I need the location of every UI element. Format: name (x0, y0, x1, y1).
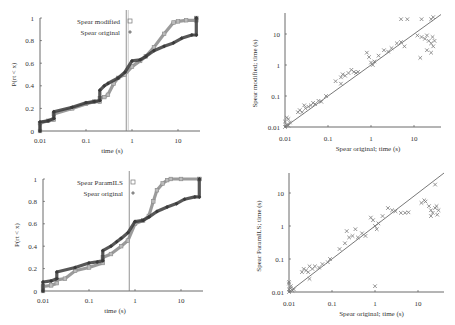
scatter-point (425, 48, 429, 52)
x-tick-label: 0.1 (82, 137, 91, 145)
scatter-point (399, 17, 403, 21)
cdf-plot-top: 0.010.111000.20.40.60.81time (s)P(rt < x… (0, 0, 230, 160)
scatter-plot-bottom: 0.010.11100.010.1110Spear original; time… (230, 160, 455, 325)
scatter-point (433, 39, 437, 43)
scatter-point (429, 214, 433, 218)
scatter-point (347, 71, 351, 75)
y-tick-label: 10 (273, 31, 281, 39)
scatter-point (367, 55, 371, 59)
scatter-point (373, 284, 377, 288)
y-axis-label: Spear modified; time (s) (251, 39, 259, 108)
square-marker (103, 95, 107, 99)
scatter-point (420, 17, 424, 21)
legend-label: Spear modified (77, 18, 120, 26)
square-marker (126, 239, 130, 243)
y-tick-label: 0.1 (271, 93, 280, 101)
diagonal-line (289, 173, 444, 292)
scatter-point (343, 241, 347, 245)
scatter-point (365, 51, 369, 55)
legend-diamond-icon (128, 30, 132, 34)
legend-diamond-icon (131, 191, 135, 195)
scatter-point (382, 48, 386, 52)
legend-label: Spear original (84, 190, 124, 198)
y-tick-label: 0.01 (268, 124, 281, 132)
square-marker (184, 18, 188, 22)
y-tick-label: 0.2 (28, 265, 37, 273)
x-tick-label: 0.01 (37, 297, 50, 305)
square-marker (162, 32, 166, 36)
scatter-point (407, 211, 411, 215)
cdf-chart-top: 0.010.111000.20.40.60.81time (s)P(rt < x… (0, 0, 230, 160)
square-marker (152, 200, 156, 204)
y-tick-label: 0.1 (275, 256, 284, 264)
y-tick-label: 1 (34, 176, 38, 184)
cdf-plot-bottom: 0.010.111000.20.40.60.81time (s)P(rt < x… (0, 160, 230, 325)
scatter-point (347, 236, 351, 240)
scatter-point (429, 51, 433, 55)
x-tick-label: 10 (175, 137, 183, 145)
scatter-point (345, 229, 349, 233)
scatter-point (377, 54, 381, 58)
square-marker (63, 277, 67, 281)
scatter-point (351, 234, 355, 238)
y-tick-label: 0 (31, 128, 35, 136)
legend-square-icon (131, 180, 135, 184)
x-tick-label: 0.1 (328, 300, 337, 308)
scatter-point (321, 262, 325, 266)
scatter-point (360, 232, 364, 236)
x-tick-label: 0.01 (279, 135, 292, 143)
scatter-chart-top: 0.010.11100.010.1110Spear original; time… (230, 0, 455, 160)
scatter-point (339, 82, 343, 86)
scatter-point (418, 56, 422, 60)
scatter-point (326, 260, 330, 264)
y-tick-label: 0.4 (25, 82, 34, 90)
scatter-point (425, 34, 429, 38)
scatter-point (375, 227, 379, 231)
scatter-point (435, 213, 439, 217)
scatter-point (406, 17, 410, 21)
square-marker (119, 244, 123, 248)
square-marker (106, 93, 110, 97)
x-tick-label: 1 (373, 300, 377, 308)
scatter-chart-bottom: 0.010.11100.010.1110Spear original; time… (230, 160, 455, 325)
square-marker (172, 21, 176, 25)
scatter-point (386, 206, 390, 210)
scatter-point (317, 99, 321, 103)
scatter-point (435, 204, 439, 208)
scatter-point (306, 270, 310, 274)
square-marker (49, 284, 53, 288)
legend-label: Spear ParamILS (77, 179, 123, 187)
scatter-point (390, 208, 394, 212)
x-tick-label: 0.1 (85, 297, 94, 305)
scatter-point (427, 204, 431, 208)
x-tick-label: 1 (369, 135, 373, 143)
x-axis-label: time (s) (101, 147, 123, 155)
diagonal-line (285, 15, 441, 127)
scatter-point (429, 42, 433, 46)
scatter-point (431, 15, 435, 19)
x-axis-label: Spear original; time (s) (339, 310, 404, 318)
scatter-point (334, 79, 338, 83)
scatter-point (338, 247, 342, 251)
y-tick-label: 0.8 (25, 37, 34, 45)
y-tick-label: 0.8 (28, 198, 37, 206)
y-tick-label: 0 (34, 288, 38, 296)
scatter-point (287, 117, 291, 121)
x-tick-label: 10 (411, 135, 419, 143)
square-marker (179, 177, 183, 181)
scatter-point (300, 270, 304, 274)
x-tick-label: 10 (178, 297, 186, 305)
scatter-point (403, 45, 407, 49)
scatter-point (424, 200, 428, 204)
y-tick-label: 0.6 (25, 60, 34, 68)
x-axis-label: time (s) (104, 307, 126, 315)
y-axis-label: Spear ParamILS; time (s) (255, 200, 263, 272)
y-tick-label: 0.01 (272, 289, 285, 297)
scatter-point (313, 265, 317, 269)
y-axis-label: P(rt < x) (13, 222, 21, 246)
scatter-point (431, 45, 435, 49)
scatter-point (364, 234, 368, 238)
scatter-point (416, 34, 420, 38)
cdf-chart-bottom: 0.010.111000.20.40.60.81time (s)P(rt < x… (0, 160, 230, 325)
scatter-point (437, 208, 441, 212)
